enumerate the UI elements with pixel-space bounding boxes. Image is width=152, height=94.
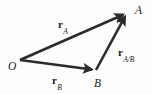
vector-arrow-r-a [20, 15, 123, 60]
vector-label-r-a: rA [58, 15, 67, 34]
vector-subscript-r-b: B [57, 83, 62, 92]
point-label-a: A [135, 5, 142, 17]
point-label-b: B [94, 78, 101, 90]
vector-diagram-figure: rA rB rA/B O A B [0, 0, 152, 94]
vector-arrow-r-b [20, 60, 92, 69]
vector-subscript-r-a: A [63, 27, 68, 36]
vector-label-r-a-over-b: rA/B [118, 43, 134, 62]
vector-label-r-b: rB [52, 71, 61, 90]
point-label-o: O [8, 61, 16, 73]
vector-subscript-r-a-over-b: A/B [123, 55, 134, 64]
